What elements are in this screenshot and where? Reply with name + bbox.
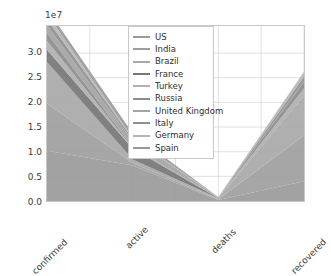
legend-color-swatch: [133, 36, 150, 38]
x-tick-label: deaths: [231, 205, 260, 234]
legend-item[interactable]: Germany: [133, 129, 208, 141]
x-tick-label: confirmed: [62, 205, 101, 244]
legend-color-swatch: [133, 85, 150, 87]
legend-item-label: United Kingdom: [155, 107, 223, 116]
x-tick-label-text: confirmed: [30, 237, 69, 276]
x-tick-label-text: recovered: [289, 237, 328, 276]
legend-item-label: Brazil: [155, 57, 179, 66]
chart-legend[interactable]: USIndiaBrazilFranceTurkeyRussiaUnited Ki…: [128, 26, 214, 159]
x-tick-label: active: [143, 205, 169, 231]
legend-item-label: Germany: [155, 131, 194, 140]
legend-item-label: France: [155, 70, 183, 79]
x-tick-label-text: active: [124, 224, 150, 250]
legend-item[interactable]: Italy: [133, 117, 208, 129]
legend-item[interactable]: Russia: [133, 92, 208, 104]
legend-color-swatch: [133, 61, 150, 63]
legend-item[interactable]: Turkey: [133, 80, 208, 92]
legend-item-label: US: [155, 33, 167, 42]
legend-color-swatch: [133, 110, 150, 112]
legend-item-label: Italy: [155, 119, 173, 128]
legend-item-label: Spain: [155, 144, 179, 153]
legend-item[interactable]: Brazil: [133, 56, 208, 68]
legend-color-swatch: [133, 73, 150, 75]
x-tick-label: recovered: [321, 205, 331, 244]
legend-item-label: Turkey: [155, 82, 183, 91]
legend-item-label: Russia: [155, 94, 182, 103]
legend-color-swatch: [133, 135, 150, 137]
legend-item[interactable]: US: [133, 31, 208, 43]
legend-color-swatch: [133, 98, 150, 100]
legend-item[interactable]: United Kingdom: [133, 105, 208, 117]
legend-item[interactable]: France: [133, 68, 208, 80]
legend-color-swatch: [133, 48, 150, 50]
legend-item-label: India: [155, 45, 176, 54]
legend-item[interactable]: Spain: [133, 142, 208, 154]
x-tick-label-text: deaths: [209, 227, 238, 256]
legend-item[interactable]: India: [133, 43, 208, 55]
legend-color-swatch: [133, 147, 150, 149]
legend-color-swatch: [133, 122, 150, 124]
